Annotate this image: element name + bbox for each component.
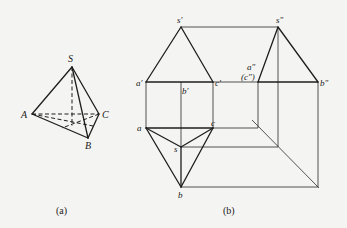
figure-a-pyramid: S A C B (a) <box>20 53 109 217</box>
projection-lines <box>146 27 319 188</box>
label-s-prime: s′ <box>177 15 184 25</box>
label-B: B <box>85 140 91 151</box>
edge-SA <box>32 67 72 114</box>
label-S: S <box>68 53 73 64</box>
edge-SC <box>72 67 99 114</box>
label-s-double-prime: s″ <box>276 15 284 25</box>
label-C: C <box>102 109 109 120</box>
label-b: b <box>178 190 183 200</box>
edge-AB <box>32 114 88 138</box>
diagram-canvas: S A C B (a) <box>0 0 347 228</box>
label-a-prime: a′ <box>136 78 144 88</box>
label-A: A <box>20 109 28 120</box>
figure-b-projections: s′ a′ b′ c′ s″ a″ (c″) b″ a c s b (b) <box>136 15 329 217</box>
top-view <box>146 128 213 187</box>
label-b-double-prime: b″ <box>320 78 329 88</box>
label-c: c <box>211 118 215 128</box>
label-a: a <box>137 123 142 133</box>
label-c-double-prime: (c″) <box>241 72 255 82</box>
label-s: s <box>174 144 178 154</box>
label-a-double-prime: a″ <box>247 62 256 72</box>
caption-a: (a) <box>56 205 67 217</box>
miter-line-45deg <box>252 120 319 188</box>
front-view <box>146 27 213 82</box>
caption-b: (b) <box>223 205 235 217</box>
edge-SB <box>72 67 88 138</box>
label-c-prime: c′ <box>215 78 222 88</box>
label-b-prime: b′ <box>182 86 190 96</box>
side-view <box>258 27 318 82</box>
